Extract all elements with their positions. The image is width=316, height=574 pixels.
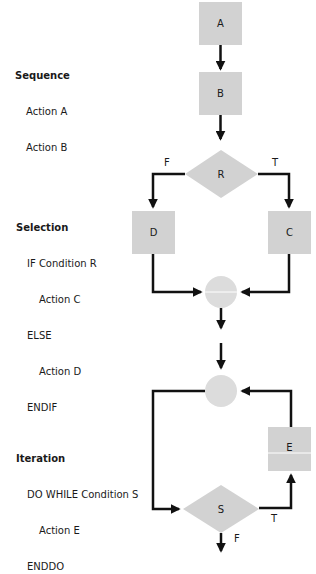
junction-selection [205,276,237,308]
decision-r-label: R [218,169,225,180]
iteration-line: ENDDO [16,561,138,573]
edge-label-s-true: T [270,513,278,524]
edge-label-r-false: F [164,157,170,168]
edge-label-r-true: T [271,157,279,168]
junction-iteration [205,375,237,407]
node-c: C [268,211,311,254]
node-e-label: E [286,442,292,453]
node-a-label: A [217,18,224,29]
arrow-r-to-c [258,174,289,207]
arrow-junction-to-s [153,391,205,509]
arrow-d-to-junction [153,254,201,292]
node-d: D [132,211,175,254]
node-b: B [199,72,242,115]
decision-s-label: S [218,504,224,515]
arrow-r-to-d [153,174,185,207]
node-e: E [268,427,311,471]
edge-label-s-false: F [234,533,240,544]
node-a: A [199,2,242,45]
arrow-c-to-junction [242,254,289,292]
node-d-label: D [150,227,158,238]
node-b-label: B [217,88,224,99]
decision-s: S [183,485,259,533]
arrow-e-to-junction [242,391,291,427]
arrow-s-to-e [259,475,291,508]
decision-r: R [185,150,258,198]
node-c-label: C [286,227,293,238]
